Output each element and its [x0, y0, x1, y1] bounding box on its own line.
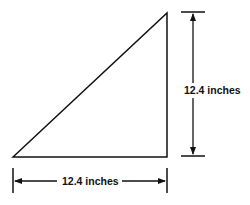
triangle-diagram: 12.4 inches 12.4 inches	[0, 0, 250, 205]
base-dimension: 12.4 inches	[13, 168, 167, 193]
base-label: 12.4 inches	[62, 175, 119, 187]
height-dimension: 12.4 inches	[181, 12, 241, 156]
height-label: 12.4 inches	[184, 84, 241, 96]
right-triangle	[13, 13, 167, 157]
